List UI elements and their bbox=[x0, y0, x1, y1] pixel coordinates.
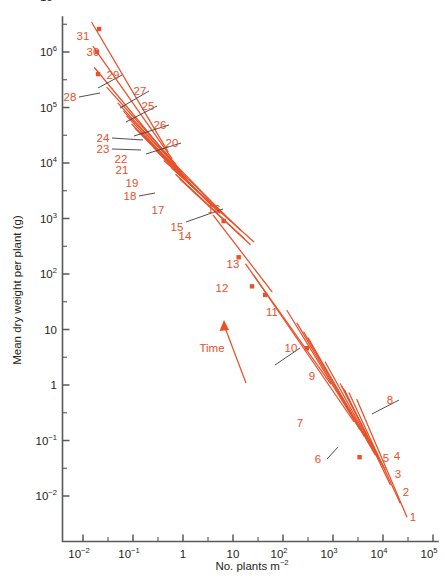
time-label: Time bbox=[199, 342, 224, 354]
y-tick-label: 105 bbox=[40, 100, 57, 114]
series-marker-31 bbox=[97, 27, 101, 31]
series-label-13: 13 bbox=[227, 258, 240, 270]
y-axis-tick-labels: 10−210−1110102103104105106107 bbox=[36, 0, 57, 502]
series-line-2 bbox=[349, 393, 400, 503]
series-labels-layer: 1234567891011121314151617181920212223242… bbox=[64, 30, 417, 523]
series-label-6: 6 bbox=[315, 453, 321, 465]
y-axis-title: Mean dry weight per plant (g) bbox=[11, 215, 23, 365]
y-tick-label: 1 bbox=[51, 379, 57, 391]
self-thinning-log-log-chart: 10−210−1110102103104105106107 10−210−111… bbox=[0, 0, 445, 588]
series-label-12: 12 bbox=[216, 282, 229, 294]
series-label-2: 2 bbox=[403, 486, 409, 498]
y-tick-label: 104 bbox=[40, 155, 57, 169]
series-label-23: 23 bbox=[97, 143, 110, 155]
x-axis-ticks bbox=[83, 535, 433, 542]
series-label-9: 9 bbox=[309, 370, 315, 382]
series-label-26: 26 bbox=[154, 119, 167, 131]
series-label-7: 7 bbox=[297, 417, 303, 429]
series-line-10 bbox=[287, 310, 360, 429]
y-axis-ticks bbox=[63, 0, 70, 496]
series-label-22: 22 bbox=[115, 153, 128, 165]
series-line-12 bbox=[246, 264, 331, 384]
series-label-18: 18 bbox=[124, 190, 137, 202]
series-label-19: 19 bbox=[126, 177, 139, 189]
series-label-17: 17 bbox=[152, 204, 165, 216]
series-leader-6 bbox=[327, 447, 338, 459]
time-arrow-icon bbox=[224, 325, 246, 383]
time-annotation: Time bbox=[199, 320, 246, 383]
y-tick-label: 107 bbox=[40, 0, 57, 3]
series-label-31: 31 bbox=[77, 30, 90, 42]
series-label-29: 29 bbox=[107, 69, 120, 81]
series-line-24 bbox=[132, 124, 190, 184]
series-label-15: 15 bbox=[171, 221, 184, 233]
series-label-30: 30 bbox=[87, 46, 100, 58]
time-arrowhead-icon bbox=[220, 320, 230, 331]
series-label-21: 21 bbox=[116, 164, 129, 176]
series-label-20: 20 bbox=[166, 137, 179, 149]
series-leader-8 bbox=[372, 400, 399, 414]
x-tick-label: 1 bbox=[180, 548, 186, 560]
y-tick-label: 10−1 bbox=[36, 433, 57, 447]
series-label-10: 10 bbox=[285, 342, 298, 354]
x-tick-label: 10−2 bbox=[68, 546, 89, 560]
y-tick-label: 10−2 bbox=[36, 488, 57, 502]
series-marker-12 bbox=[250, 284, 254, 288]
series-marker-14 bbox=[221, 219, 225, 223]
series-label-8: 8 bbox=[387, 394, 393, 406]
series-marker-11 bbox=[263, 293, 267, 297]
y-tick-label: 102 bbox=[40, 266, 57, 280]
series-label-28: 28 bbox=[64, 91, 77, 103]
series-leader-18 bbox=[139, 193, 155, 196]
series-marker-9 bbox=[305, 346, 309, 350]
series-label-1: 1 bbox=[410, 511, 416, 523]
series-line-8 bbox=[304, 332, 372, 447]
series-label-4: 4 bbox=[394, 450, 401, 462]
x-tick-label: 103 bbox=[320, 546, 337, 560]
x-tick-label: 104 bbox=[370, 546, 387, 560]
y-tick-label: 106 bbox=[40, 44, 57, 58]
series-line-13 bbox=[213, 215, 272, 292]
x-tick-label: 10−1 bbox=[118, 546, 139, 560]
y-tick-label: 103 bbox=[40, 211, 57, 225]
x-tick-label: 105 bbox=[420, 546, 437, 560]
x-tick-label: 10 bbox=[227, 548, 240, 560]
series-label-27: 27 bbox=[134, 85, 147, 97]
series-label-24: 24 bbox=[97, 132, 110, 144]
series-label-3: 3 bbox=[395, 468, 401, 480]
figure-container: 10−210−1110102103104105106107 10−210−111… bbox=[0, 0, 445, 588]
x-axis-tick-labels: 10−210−1110102103104105 bbox=[68, 546, 437, 560]
x-axis-title: No. plants m−2 bbox=[215, 558, 288, 572]
series-marker-2 bbox=[357, 455, 361, 459]
series-leader-24 bbox=[112, 138, 143, 140]
series-leader-28 bbox=[79, 93, 100, 97]
series-marker-28 bbox=[96, 72, 100, 76]
series-label-16: 16 bbox=[208, 203, 221, 215]
series-label-5: 5 bbox=[383, 452, 389, 464]
series-leader-23 bbox=[112, 149, 141, 150]
series-label-25: 25 bbox=[142, 100, 155, 112]
series-label-11: 11 bbox=[266, 306, 278, 318]
y-tick-label: 10 bbox=[44, 324, 57, 336]
